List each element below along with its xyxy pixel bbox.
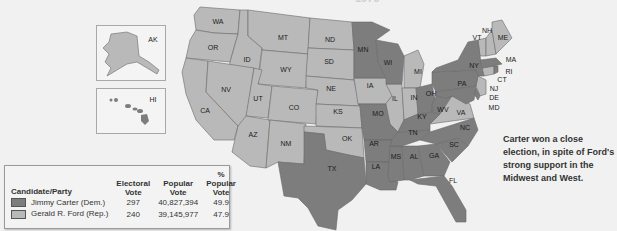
label-WA: WA — [212, 18, 223, 25]
label-MI: MI — [414, 68, 422, 75]
label-TN: TN — [408, 129, 417, 136]
label-OK: OK — [342, 135, 352, 142]
header-pct-popular: % PopularVote — [202, 170, 240, 197]
label-PA: PA — [458, 80, 467, 87]
label-NV: NV — [221, 86, 231, 93]
label-MN: MN — [358, 46, 369, 53]
label-WY: WY — [280, 66, 292, 73]
label-KS: KS — [333, 108, 343, 115]
label-TX: TX — [328, 165, 337, 172]
label-IN: IN — [411, 94, 418, 101]
legend-header-row: Candidate/Party ElectoralVote PopularVot… — [9, 170, 240, 197]
candidate-name: Jimmy Carter (Dem.) — [31, 198, 105, 207]
label-WV: WV — [437, 106, 449, 113]
electoral-vote: 297 — [112, 197, 154, 208]
label-UT: UT — [253, 95, 263, 102]
pct-popular-vote: 49.9 — [202, 197, 240, 208]
label-MS: MS — [391, 153, 402, 160]
label-KY: KY — [417, 113, 427, 120]
label-MD: MD — [489, 104, 500, 111]
label-GA: GA — [429, 152, 439, 159]
election-results-legend: Candidate/Party ElectoralVote PopularVot… — [4, 165, 230, 229]
state-MS — [388, 146, 404, 182]
label-VT: VT — [473, 34, 483, 41]
popular-vote: 40,827,394 — [154, 197, 202, 208]
label-AR: AR — [369, 140, 379, 147]
header-electoral: ElectoralVote — [112, 170, 154, 197]
candidate-name: Gerald R. Ford (Rep.) — [31, 209, 108, 218]
state-MA — [480, 58, 502, 68]
label-SC: SC — [449, 141, 459, 148]
pct-popular-vote: 47.9 — [202, 208, 240, 219]
label-AL: AL — [410, 153, 419, 160]
carter-swatch — [11, 198, 26, 207]
state-RI — [494, 66, 498, 74]
label-IA: IA — [367, 82, 374, 89]
label-NM: NM — [281, 140, 292, 147]
label-ID: ID — [244, 56, 251, 63]
legend-row-carter: Jimmy Carter (Dem.) 297 40,827,394 49.9 — [9, 197, 240, 208]
popular-vote: 39,145,977 — [154, 208, 202, 219]
label-OH: OH — [426, 90, 437, 97]
label-MA: MA — [506, 56, 517, 63]
label-LA: LA — [372, 163, 381, 170]
label-MO: MO — [372, 110, 384, 117]
label-NJ: NJ — [490, 85, 499, 92]
label-NH: NH — [482, 27, 492, 34]
label-OR: OR — [208, 44, 219, 51]
ford-swatch — [11, 210, 26, 219]
label-IL: IL — [392, 95, 398, 102]
legend-row-ford: Gerald R. Ford (Rep.) 240 39,145,977 47.… — [9, 208, 240, 219]
label-SD: SD — [324, 58, 334, 65]
state-FL — [410, 176, 466, 222]
label-ND: ND — [325, 36, 335, 43]
label-VA: VA — [457, 109, 466, 116]
state-ND — [308, 18, 354, 50]
label-CO: CO — [289, 104, 300, 111]
label-CT: CT — [497, 76, 507, 83]
label-NE: NE — [326, 85, 336, 92]
label-RI: RI — [506, 68, 513, 75]
label-ME: ME — [498, 34, 509, 41]
label-NC: NC — [460, 124, 470, 131]
label-MT: MT — [278, 34, 289, 41]
label-NY: NY — [469, 62, 479, 69]
header-popular: PopularVote — [154, 170, 202, 197]
electoral-vote: 240 — [112, 208, 154, 219]
label-DE: DE — [489, 94, 499, 101]
label-AZ: AZ — [249, 131, 259, 138]
label-WI: WI — [384, 59, 393, 66]
label-FL: FL — [449, 177, 457, 184]
header-candidate: Candidate/Party — [9, 170, 112, 197]
state-NY — [432, 40, 484, 76]
map-caption: Carter won a close election, in spite of… — [503, 133, 615, 185]
label-CA: CA — [200, 107, 210, 114]
results-table: Candidate/Party ElectoralVote PopularVot… — [9, 170, 240, 220]
